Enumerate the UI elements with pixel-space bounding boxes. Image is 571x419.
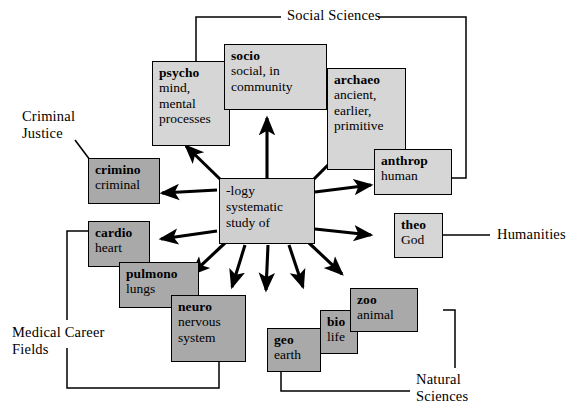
node-cardio-root: cardio <box>95 225 144 240</box>
node-neuro-gloss: nervous system <box>178 314 240 345</box>
node-psycho[interactable]: psycho mind, mental processes <box>152 61 230 146</box>
node-theo-root: theo <box>401 217 437 232</box>
bracket-label-criminal-justice: Criminal Justice <box>22 108 75 142</box>
node-anthrop-gloss: human <box>381 168 446 183</box>
node-socio-root: socio <box>231 48 321 63</box>
node-logy-root: -logy <box>226 183 308 199</box>
node-anthrop[interactable]: anthrop human <box>374 149 452 195</box>
node-zoo[interactable]: zoo animal <box>350 288 418 332</box>
node-neuro[interactable]: neuro nervous system <box>171 295 246 362</box>
node-psycho-root: psycho <box>159 65 224 80</box>
arrow-to-cardio <box>161 231 217 239</box>
node-archaeo-root: archaeo <box>334 72 400 87</box>
diagram-canvas: psycho mind, mental processes socio soci… <box>0 0 571 419</box>
node-theo[interactable]: theo God <box>394 213 443 258</box>
node-anthrop-root: anthrop <box>381 153 446 168</box>
arrow-to-geo <box>266 245 268 290</box>
node-pulmono-root: pulmono <box>126 266 193 281</box>
bracket-label-natural-sciences: Natural Sciences <box>416 371 468 405</box>
node-logy-gloss: systematic study of <box>226 199 308 231</box>
bracket-label-humanities: Humanities <box>497 226 566 243</box>
node-cardio[interactable]: cardio heart <box>88 221 150 267</box>
node-cardio-gloss: heart <box>95 240 144 255</box>
node-bio-gloss: life <box>327 329 352 344</box>
bracket-label-medical-career-fields: Medical Career Fields <box>12 324 105 358</box>
node-crimino[interactable]: crimino criminal <box>88 158 160 204</box>
node-socio-gloss: social, in community <box>231 63 321 94</box>
node-socio[interactable]: socio social, in community <box>224 44 327 110</box>
bracket-label-social-sciences: Social Sciences <box>287 7 381 24</box>
node-zoo-gloss: animal <box>357 307 412 322</box>
node-crimino-gloss: criminal <box>95 177 154 192</box>
node-psycho-gloss: mind, mental processes <box>159 80 224 126</box>
arrow-to-theo <box>315 229 371 235</box>
node-geo-gloss: earth <box>274 347 315 362</box>
node-archaeo-gloss: ancient, earlier, primitive <box>334 87 400 133</box>
node-theo-gloss: God <box>401 232 437 247</box>
node-logy-center[interactable]: -logy systematic study of <box>219 178 315 244</box>
node-zoo-root: zoo <box>357 292 412 307</box>
arrow-to-anthrop <box>315 185 371 192</box>
node-crimino-root: crimino <box>95 162 154 177</box>
node-geo[interactable]: geo earth <box>267 328 321 372</box>
node-neuro-root: neuro <box>178 299 240 314</box>
arrow-to-psycho <box>186 146 222 181</box>
node-bio-root: bio <box>327 314 352 329</box>
arrow-to-zoo <box>309 243 342 274</box>
bracket-criminal-justice <box>75 140 90 160</box>
arrow-to-neuro <box>232 245 245 287</box>
arrow-to-crimino <box>162 190 217 193</box>
node-geo-root: geo <box>274 332 315 347</box>
arrow-to-bio <box>289 245 303 287</box>
